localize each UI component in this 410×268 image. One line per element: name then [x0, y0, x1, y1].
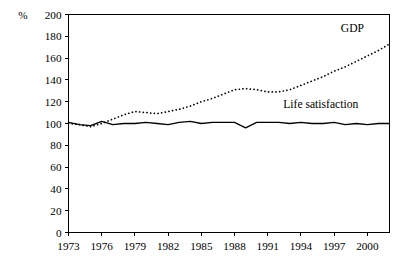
x-tick-label: 1997: [323, 240, 346, 252]
percent-unit-label: %: [18, 9, 27, 21]
y-tick-label: 180: [45, 30, 62, 42]
y-tick-label: 120: [45, 96, 62, 108]
y-tick-label: 40: [50, 183, 62, 195]
y-axis-ticks: 020406080100120140160180200: [45, 9, 69, 239]
x-tick-label: 1973: [57, 240, 80, 252]
series-annotations: GDPLife satisfaction: [283, 22, 364, 111]
y-tick-label: 80: [50, 139, 62, 151]
chart-container: 020406080100120140160180200 197319761979…: [0, 0, 410, 268]
x-axis-ticks: 1973197619791982198519881991199419972000: [57, 233, 379, 252]
y-tick-label: 100: [45, 118, 62, 130]
series-line-life-satisfaction: [69, 121, 390, 128]
x-tick-label: 1979: [124, 240, 147, 252]
x-tick-label: 1982: [157, 240, 179, 252]
x-tick-label: 1991: [257, 240, 279, 252]
y-axis-unit: %: [18, 9, 27, 21]
y-tick-label: 0: [56, 227, 62, 239]
x-tick-label: 1976: [91, 240, 114, 252]
series-label-life-satisfaction: Life satisfaction: [283, 98, 358, 111]
y-tick-label: 20: [50, 205, 62, 217]
data-series: [69, 44, 390, 128]
line-chart: 020406080100120140160180200 197319761979…: [0, 0, 410, 268]
x-tick-label: 1988: [223, 240, 246, 252]
y-tick-label: 160: [45, 52, 62, 64]
series-label-gdp: GDP: [341, 22, 364, 35]
y-tick-label: 60: [50, 161, 62, 173]
x-tick-label: 2000: [356, 240, 379, 252]
x-tick-label: 1994: [290, 240, 313, 252]
series-line-gdp: [69, 44, 390, 127]
x-tick-label: 1985: [190, 240, 213, 252]
y-tick-label: 200: [45, 9, 62, 21]
y-tick-label: 140: [45, 74, 62, 86]
